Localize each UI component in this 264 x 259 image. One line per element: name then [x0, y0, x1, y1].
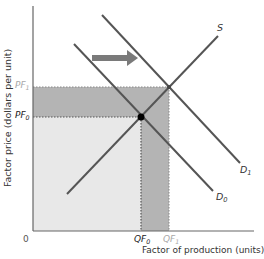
- quantity-label-qf1-sub: 1: [175, 238, 179, 245]
- quantity-label-qf1: QF1: [163, 235, 179, 245]
- price-label-pf0: PF0: [15, 111, 30, 121]
- equilibrium-point-initial: [138, 114, 145, 121]
- demand-curve-d0-label: D0: [216, 192, 228, 203]
- price-label-pf1-sub: 1: [26, 84, 30, 91]
- price-label-pf0-base: PF: [15, 110, 26, 120]
- x-axis-label: Factor of production (units): [142, 246, 264, 255]
- origin-label: 0: [23, 235, 29, 244]
- price-label-pf1-base: PF: [15, 80, 26, 90]
- quantity-label-qf0: QF0: [134, 235, 150, 245]
- quantity-label-qf0-sub: 0: [146, 238, 150, 245]
- demand-curve-d0-label-sub: 0: [223, 196, 227, 204]
- quantity-label-qf1-base: QF: [163, 234, 175, 244]
- income-area-increase-right: [141, 117, 169, 231]
- supply-curve-label: S: [217, 23, 223, 33]
- factor-market-diagram: Factor price (dollars per unit) PF1 PF0 …: [0, 0, 264, 259]
- equilibrium-point-new: [167, 85, 171, 89]
- y-axis-label: Factor price (dollars per unit): [3, 49, 13, 187]
- demand-curve-d1-label: D1: [240, 165, 252, 176]
- shift-right-arrow-icon: [92, 50, 138, 66]
- price-label-pf1: PF1: [15, 81, 30, 91]
- quantity-label-qf0-base: QF: [134, 234, 146, 244]
- income-area-increase-top: [33, 87, 169, 117]
- price-label-pf0-sub: 0: [26, 114, 30, 121]
- diagram-canvas: [0, 0, 264, 259]
- demand-curve-d1-label-sub: 1: [247, 169, 251, 177]
